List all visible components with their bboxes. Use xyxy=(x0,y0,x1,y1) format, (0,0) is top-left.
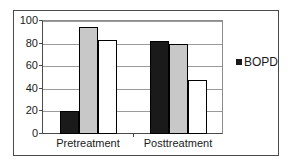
bar xyxy=(79,27,98,134)
x-axis-tick-label: Pretreatment xyxy=(43,137,133,150)
y-axis-tick-label: 40 xyxy=(12,83,38,94)
legend-square-marker-icon xyxy=(236,59,242,65)
bar xyxy=(188,80,207,134)
bar xyxy=(169,44,188,134)
y-axis-labels: 020406080100 xyxy=(14,20,38,134)
legend-label: BOPD xyxy=(244,56,278,68)
chart-frame: 020406080100 PretreatmentPosttreatment B… xyxy=(13,10,279,156)
y-axis-tick-label: 60 xyxy=(12,60,38,71)
y-axis-tick-label: 20 xyxy=(12,105,38,116)
bars-layer xyxy=(43,21,223,134)
x-axis-tick-label: Posttreatment xyxy=(133,137,223,150)
bar xyxy=(150,41,169,134)
y-axis-tick-label: 100 xyxy=(12,15,38,26)
bar xyxy=(98,40,117,134)
y-axis-tick-label: 80 xyxy=(12,38,38,49)
chart-plot-wrapper: 020406080100 PretreatmentPosttreatment B… xyxy=(14,11,278,155)
bar xyxy=(60,111,79,134)
chart-legend: BOPD xyxy=(236,56,278,68)
y-axis-tick-label: 0 xyxy=(12,128,38,139)
